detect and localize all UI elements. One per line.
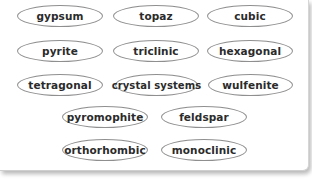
term-oval-orthorhombic: orthorhombic bbox=[62, 139, 148, 161]
term-label: hexagonal bbox=[219, 45, 281, 57]
term-oval-pyromophite: pyromophite bbox=[62, 106, 148, 128]
term-oval-pyrite: pyrite bbox=[17, 40, 103, 62]
term-label: feldspar bbox=[179, 111, 229, 123]
term-label: pyromophite bbox=[67, 111, 144, 123]
term-label: topaz bbox=[139, 10, 172, 22]
term-oval-tetragonal: tetragonal bbox=[17, 74, 103, 96]
center-term-oval-crystal-systems: crystal systems bbox=[115, 74, 198, 96]
term-oval-triclinic: triclinic bbox=[113, 40, 199, 62]
term-label: tetragonal bbox=[28, 79, 91, 91]
term-label: monoclinic bbox=[172, 144, 237, 156]
term-label: gypsum bbox=[36, 10, 83, 22]
word-card: gypsum topaz cubic pyrite triclinic hexa… bbox=[0, 0, 309, 171]
term-oval-gypsum: gypsum bbox=[17, 5, 103, 27]
term-label: cubic bbox=[234, 10, 266, 22]
term-label: orthorhombic bbox=[64, 144, 145, 156]
term-label: pyrite bbox=[42, 45, 78, 57]
term-oval-monoclinic: monoclinic bbox=[161, 139, 247, 161]
term-oval-topaz: topaz bbox=[113, 5, 199, 27]
term-oval-cubic: cubic bbox=[207, 5, 293, 27]
term-oval-wulfenite: wulfenite bbox=[208, 74, 293, 96]
term-oval-feldspar: feldspar bbox=[161, 106, 247, 128]
term-label: wulfenite bbox=[222, 79, 279, 91]
term-label: triclinic bbox=[133, 45, 178, 57]
term-oval-hexagonal: hexagonal bbox=[207, 40, 293, 62]
center-term-label: crystal systems bbox=[112, 80, 202, 91]
